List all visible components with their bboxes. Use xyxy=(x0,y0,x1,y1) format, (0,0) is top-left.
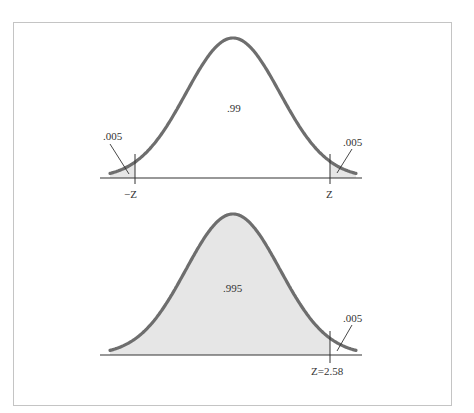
panel-two-tailed: .99 .005 .005 −Z Z xyxy=(100,38,363,200)
right-tail-label: .005 xyxy=(343,312,363,324)
panel-one-tailed: .995 .005 Z=2.58 xyxy=(100,214,363,377)
center-area-label: .99 xyxy=(227,102,241,114)
right-tail-label: .005 xyxy=(343,136,363,148)
normal-distribution-figure: .99 .005 .005 −Z Z .995 .005 Z=2.58 xyxy=(0,0,474,413)
left-tail-label: .005 xyxy=(103,130,123,142)
center-area-label: .995 xyxy=(223,282,243,294)
left-critical-label: −Z xyxy=(124,188,137,200)
right-critical-label: Z xyxy=(326,188,333,200)
right-critical-label: Z=2.58 xyxy=(311,365,344,377)
